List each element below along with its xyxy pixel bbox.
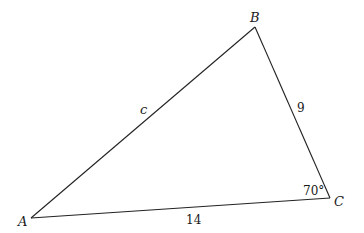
vertex-label-c: C bbox=[334, 194, 344, 209]
side-label-c: c bbox=[140, 102, 148, 117]
vertex-label-a: A bbox=[17, 214, 27, 229]
side-bc bbox=[255, 27, 330, 198]
angle-label-c: 70° bbox=[303, 184, 324, 198]
side-ac bbox=[31, 198, 330, 218]
triangle-diagram: B C A c 9 14 70° bbox=[0, 0, 364, 233]
side-label-bc: 9 bbox=[297, 101, 305, 115]
side-ab bbox=[31, 27, 255, 218]
vertex-label-b: B bbox=[249, 10, 260, 25]
side-label-ac: 14 bbox=[186, 213, 202, 227]
